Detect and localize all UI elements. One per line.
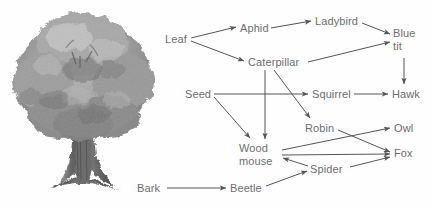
node-seed[interactable]: Seed (185, 88, 211, 101)
edge-aphid-ladybird (271, 21, 311, 28)
edge-seed-woodmouse (214, 97, 250, 138)
node-aphid[interactable]: Aphid (240, 22, 269, 35)
edge-woodmouse-fox (282, 154, 390, 155)
node-spider[interactable]: Spider (310, 163, 342, 176)
edge-woodmouse-owl (282, 128, 390, 150)
node-hawk[interactable]: Hawk (392, 88, 420, 101)
edge-robin-fox (338, 130, 390, 152)
node-blue-tit[interactable]: Blue tit (393, 27, 415, 52)
edge-leaf-caterpillar (191, 41, 244, 61)
edge-caterpillar-bluetit (308, 42, 390, 62)
node-bark[interactable]: Bark (137, 182, 160, 195)
edge-ladybird-bluetit (362, 23, 390, 34)
node-beetle[interactable]: Beetle (230, 182, 262, 195)
food-web-figure: Leaf Aphid Ladybird Blue tit Caterpillar… (0, 0, 432, 210)
node-robin[interactable]: Robin (305, 122, 334, 135)
food-web-diagram: Leaf Aphid Ladybird Blue tit Caterpillar… (0, 0, 432, 210)
node-squirrel[interactable]: Squirrel (312, 88, 351, 101)
node-fox[interactable]: Fox (394, 147, 413, 160)
edge-caterpillar-robin (274, 70, 310, 118)
edge-spider-woodmouse (283, 158, 308, 166)
edge-leaf-aphid (191, 27, 236, 38)
edge-spider-fox (350, 157, 390, 167)
node-owl[interactable]: Owl (394, 122, 413, 135)
edge-beetle-spider (266, 171, 307, 186)
node-ladybird[interactable]: Ladybird (315, 15, 358, 28)
node-caterpillar[interactable]: Caterpillar (248, 56, 299, 69)
node-leaf[interactable]: Leaf (165, 33, 187, 46)
node-wood-mouse[interactable]: Wood mouse (239, 142, 273, 167)
food-web-arrows (0, 0, 432, 210)
